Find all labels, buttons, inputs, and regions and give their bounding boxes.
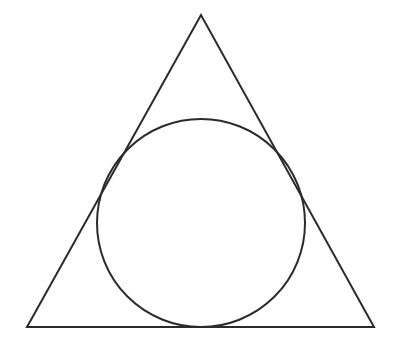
- inscribed-circle: [97, 119, 305, 327]
- equilateral-triangle: [27, 15, 374, 327]
- geometry-figure: [0, 0, 397, 349]
- diagram-canvas: [0, 0, 397, 349]
